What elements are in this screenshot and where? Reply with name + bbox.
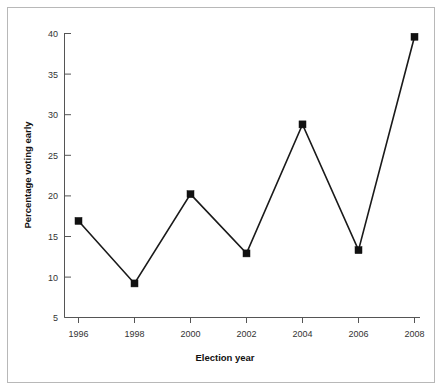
y-tick-label: 40 xyxy=(48,29,58,39)
line-chart: 40 35 30 25 20 15 10 5 1996 1998 2000 20… xyxy=(0,0,443,390)
data-markers xyxy=(75,33,418,287)
x-tick-marks xyxy=(79,318,415,324)
x-tick-label: 1996 xyxy=(68,329,88,339)
x-tick-label: 2004 xyxy=(292,329,312,339)
y-tick-labels: 40 35 30 25 20 15 10 5 xyxy=(48,29,58,323)
x-tick-labels: 1996 1998 2000 2002 2004 2006 2008 xyxy=(68,329,424,339)
data-point-marker xyxy=(243,250,250,257)
y-tick-marks xyxy=(65,34,72,318)
x-axis-title: Election year xyxy=(195,352,254,363)
x-tick-label: 2006 xyxy=(348,329,368,339)
y-tick-label: 25 xyxy=(48,151,58,161)
data-point-marker xyxy=(299,121,306,128)
x-tick-label: 2000 xyxy=(180,329,200,339)
y-axis-title: Percentage voting early xyxy=(22,121,33,229)
data-point-marker xyxy=(75,217,82,224)
data-line xyxy=(79,37,415,284)
y-tick-label: 10 xyxy=(48,273,58,283)
data-point-marker xyxy=(187,191,194,198)
y-tick-label: 20 xyxy=(48,191,58,201)
x-tick-label: 1998 xyxy=(124,329,144,339)
data-point-marker xyxy=(355,247,362,254)
data-point-marker xyxy=(411,33,418,40)
data-point-marker xyxy=(131,280,138,287)
figure-container: 40 35 30 25 20 15 10 5 1996 1998 2000 20… xyxy=(0,0,443,390)
y-tick-label: 35 xyxy=(48,70,58,80)
x-tick-label: 2008 xyxy=(404,329,424,339)
y-tick-label: 5 xyxy=(53,313,58,323)
y-tick-label: 30 xyxy=(48,110,58,120)
x-tick-label: 2002 xyxy=(236,329,256,339)
y-tick-label: 15 xyxy=(48,232,58,242)
